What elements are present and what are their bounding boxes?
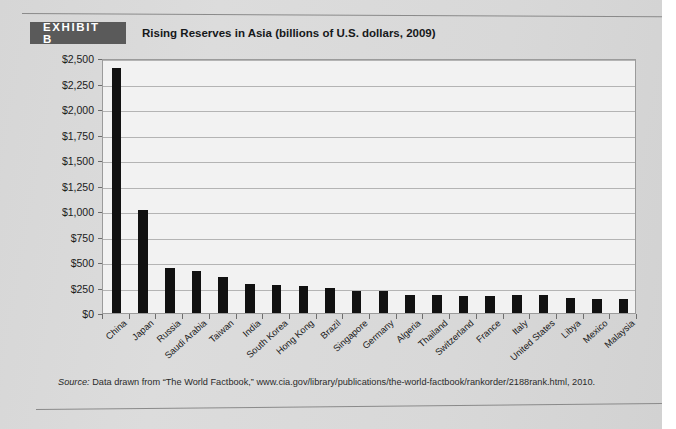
y-axis-tick-label: $1,750 — [28, 130, 94, 142]
bar — [192, 271, 202, 313]
bar — [592, 299, 602, 313]
plot-area — [102, 59, 636, 314]
bar — [432, 295, 442, 313]
bar — [325, 288, 335, 314]
x-axis-tick-label: Japan — [130, 318, 156, 342]
exhibit-tag: EXHIBIT B — [30, 22, 126, 44]
y-axis-tick-label: $1,500 — [28, 155, 94, 167]
x-axis-tick-label: China — [104, 318, 129, 342]
y-axis-tick-label: $2,000 — [28, 104, 94, 116]
bars-group — [103, 60, 635, 313]
bar — [218, 277, 228, 313]
y-axis-tick-label: $1,000 — [28, 206, 94, 218]
x-axis-tick-label: Libya — [560, 318, 583, 340]
page-edge — [662, 0, 676, 429]
bar — [485, 296, 495, 313]
bar — [299, 286, 309, 313]
source-note: Source: Data drawn from “The World Factb… — [58, 377, 595, 387]
bar — [352, 291, 362, 313]
top-divider-rule — [22, 13, 662, 17]
bar — [165, 268, 175, 313]
bar — [459, 296, 469, 313]
y-axis-tick-label: $250 — [28, 283, 94, 295]
bar — [405, 295, 415, 313]
bottom-divider-rule — [36, 403, 662, 410]
y-axis-tick-label: $2,250 — [28, 79, 94, 91]
x-axis-tick-label: India — [241, 318, 263, 339]
source-label: Source: — [58, 377, 90, 387]
x-axis-tick-label: Taiwan — [208, 318, 236, 345]
y-axis-tick-label: $1,250 — [28, 181, 94, 193]
x-axis-tick-label: Italy — [510, 318, 529, 337]
source-text: Data drawn from “The World Factbook,” ww… — [90, 377, 595, 387]
x-axis-tick-label: Brazil — [319, 318, 343, 341]
x-axis-labels: ChinaJapanRussiaSaudi ArabiaTaiwanIndiaS… — [102, 318, 636, 374]
y-axis-tick-label: $500 — [28, 257, 94, 269]
exhibit-title: Rising Reserves in Asia (billions of U.S… — [126, 22, 436, 44]
bar — [619, 299, 629, 313]
x-axis-tick-mark — [636, 314, 637, 319]
exhibit-header: EXHIBIT B Rising Reserves in Asia (billi… — [30, 22, 436, 44]
bar — [539, 295, 549, 313]
bar — [566, 298, 576, 313]
y-axis-tick-label: $0 — [28, 308, 94, 320]
y-axis-tick-label: $2,500 — [28, 53, 94, 65]
bar — [512, 295, 522, 313]
y-axis-tick-label: $750 — [28, 232, 94, 244]
bar — [245, 284, 255, 313]
bar — [379, 291, 389, 313]
x-axis-tick-label: France — [475, 318, 503, 345]
bar-chart: $0$250$500$750$1,000$1,250$1,500$1,750$2… — [28, 52, 622, 372]
bar — [272, 285, 282, 313]
bar — [112, 68, 122, 313]
bar — [138, 210, 148, 313]
exhibit-page: EXHIBIT B Rising Reserves in Asia (billi… — [0, 0, 662, 429]
